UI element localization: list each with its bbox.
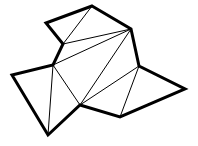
diagonal-I-F	[53, 65, 80, 105]
triangulated-polygon-diagram	[0, 0, 198, 146]
diagonal-I-G	[48, 65, 53, 135]
diagonal-F-C	[80, 66, 139, 105]
diagram-canvas	[0, 0, 198, 146]
polygon-boundary	[12, 6, 185, 135]
